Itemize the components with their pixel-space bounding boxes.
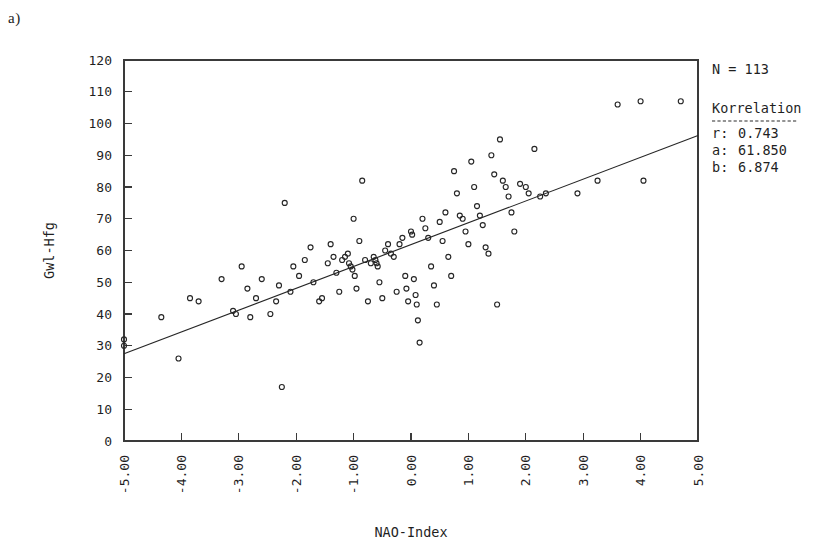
data-point — [400, 235, 405, 240]
legend-row-value: 6.874 — [738, 159, 779, 175]
data-point — [575, 191, 580, 196]
data-point — [337, 289, 342, 294]
y-tick-label: 70 — [96, 211, 112, 226]
legend-row-key: r: — [712, 125, 728, 141]
y-tick-label: 20 — [96, 370, 112, 385]
x-tick-label: -4.00 — [174, 455, 189, 494]
data-point — [454, 191, 459, 196]
legend-title: Korrelation — [712, 100, 801, 116]
y-tick-label: 50 — [96, 275, 112, 290]
data-point — [414, 302, 419, 307]
x-tick-label: 4.00 — [633, 455, 648, 486]
data-point — [503, 185, 508, 190]
data-point — [492, 172, 497, 177]
data-point — [239, 264, 244, 269]
data-point — [176, 356, 181, 361]
plot-frame — [124, 60, 698, 441]
data-point — [274, 299, 279, 304]
panel-label: a) — [8, 10, 21, 27]
data-point — [342, 254, 347, 259]
data-point — [497, 137, 502, 142]
x-tick-label: -2.00 — [289, 455, 304, 494]
data-point — [523, 185, 528, 190]
data-point — [282, 200, 287, 205]
data-point — [386, 242, 391, 247]
figure-container: a) 0102030405060708090100110120-5.00-4.0… — [0, 0, 836, 544]
data-point — [317, 299, 322, 304]
data-point — [678, 99, 683, 104]
data-point — [325, 261, 330, 266]
data-point — [415, 318, 420, 323]
data-point — [638, 99, 643, 104]
data-point — [509, 210, 514, 215]
x-tick-label: -3.00 — [231, 455, 246, 494]
data-point — [368, 261, 373, 266]
data-point — [460, 216, 465, 221]
data-point — [475, 204, 480, 209]
data-point — [440, 238, 445, 243]
data-point — [477, 213, 482, 218]
data-point — [410, 232, 415, 237]
data-point — [357, 238, 362, 243]
data-point — [434, 302, 439, 307]
data-point — [375, 264, 380, 269]
data-point — [409, 229, 414, 234]
data-point — [159, 315, 164, 320]
data-point — [259, 277, 264, 282]
data-point — [518, 181, 523, 186]
data-point — [320, 296, 325, 301]
x-tick-label: 3.00 — [576, 455, 591, 486]
data-point — [297, 273, 302, 278]
data-point — [268, 312, 273, 317]
data-point — [404, 286, 409, 291]
data-point — [406, 299, 411, 304]
y-tick-label: 30 — [96, 338, 112, 353]
data-point — [340, 258, 345, 263]
data-point — [196, 299, 201, 304]
data-point — [466, 242, 471, 247]
data-point — [291, 264, 296, 269]
data-point — [248, 315, 253, 320]
data-point — [449, 273, 454, 278]
data-point — [245, 286, 250, 291]
x-tick-label: 1.00 — [461, 455, 476, 486]
y-tick-label: 80 — [96, 180, 112, 195]
data-point — [431, 283, 436, 288]
x-tick-label: 2.00 — [518, 455, 533, 486]
data-point — [308, 245, 313, 250]
data-point — [457, 213, 462, 218]
regression-line — [124, 136, 698, 354]
data-point — [417, 340, 422, 345]
data-point — [302, 258, 307, 263]
legend-row-value: 0.743 — [738, 125, 779, 141]
data-point — [437, 219, 442, 224]
data-point — [411, 277, 416, 282]
legend-row-key: b: — [712, 159, 728, 175]
y-tick-label: 0 — [104, 434, 112, 449]
data-point — [352, 273, 357, 278]
data-point — [279, 385, 284, 390]
data-point — [452, 169, 457, 174]
x-tick-label: -1.00 — [346, 455, 361, 494]
y-tick-label: 120 — [89, 53, 112, 68]
data-point — [423, 226, 428, 231]
data-point — [188, 296, 193, 301]
data-point — [532, 146, 537, 151]
data-point — [276, 283, 281, 288]
y-tick-label: 90 — [96, 148, 112, 163]
data-point — [354, 286, 359, 291]
y-tick-label: 10 — [96, 402, 112, 417]
data-point — [443, 210, 448, 215]
data-point — [331, 254, 336, 259]
data-point — [360, 178, 365, 183]
data-point — [526, 191, 531, 196]
data-point — [483, 245, 488, 250]
y-tick-label: 60 — [96, 243, 112, 258]
data-point — [374, 261, 379, 266]
data-point — [219, 277, 224, 282]
data-point — [486, 251, 491, 256]
data-point — [380, 296, 385, 301]
legend-row-key: a: — [712, 142, 728, 158]
x-tick-label: 0.00 — [404, 455, 419, 486]
data-point — [394, 289, 399, 294]
